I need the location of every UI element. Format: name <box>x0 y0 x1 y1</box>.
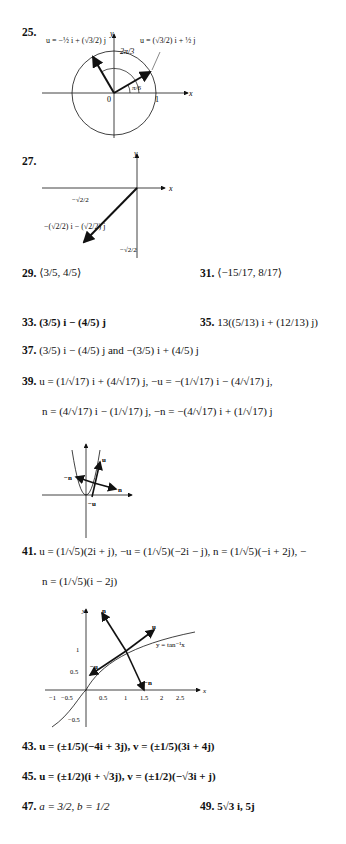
y-tick: −0.5 <box>68 716 80 723</box>
answer-number-31: 31. <box>200 267 214 279</box>
label-n: n <box>102 607 106 615</box>
figure-25-unit-circle: x y 0 1 2π/3 π/6 <box>40 30 200 140</box>
x-tick: −0.5 <box>61 694 73 701</box>
answer-35: 13((5/13) i + (12/13) j) <box>217 316 318 328</box>
figure-41-arctan: x y y = tan⁻¹x u −u n −n −1 −0.5 0.5 1 1… <box>40 605 210 730</box>
answer-number-39: 39. <box>22 375 36 387</box>
y-tick: 1 <box>76 646 79 653</box>
answer-number-49: 49. <box>200 800 214 812</box>
vector-label: −(√2/2) i − (√2/2) j <box>44 222 105 231</box>
figure-27-vector: x y −√2/2 −√2/2 <box>40 150 180 260</box>
angle-label-small: π/6 <box>132 84 141 92</box>
answer-33: (3/5) i − (4/5) j <box>39 316 106 328</box>
x-tick: −1 <box>49 694 56 701</box>
label-neg-u: −u <box>90 663 98 671</box>
answer-number-33: 33. <box>22 316 36 328</box>
label-neg-n: −n <box>64 474 72 482</box>
axis-y-label: y <box>133 150 138 158</box>
answer-29: ⟨3/5, 4/5⟩ <box>39 266 81 279</box>
answer-number-43: 43. <box>22 740 36 752</box>
answer-number-37: 37. <box>22 344 36 356</box>
axis-x-label: x <box>202 687 207 695</box>
answer-31: ⟨−15/17, 8/17⟩ <box>217 266 282 279</box>
curve-label: y = tan⁻¹x <box>156 641 185 649</box>
answer-39-line1: u = (1/√17) i + (4/√17) j, −u = −(1/√17)… <box>39 375 272 387</box>
label-neg-u: −u <box>88 500 96 508</box>
x-tick: 2 <box>160 694 163 701</box>
answer-41-line2: n = (1/√5)(i − 2j) <box>42 575 117 587</box>
axis-y-label: y <box>109 30 114 38</box>
answer-number-29: 29. <box>22 267 36 279</box>
label-u: u <box>152 623 156 631</box>
x-tick: 2.5 <box>176 694 184 701</box>
origin-label: 0 <box>107 95 111 104</box>
figure-39-parabola: u −n n −u <box>40 440 140 540</box>
label-n: n <box>118 486 122 494</box>
answer-number-47: 47. <box>22 800 36 812</box>
answer-number-35: 35. <box>200 316 214 328</box>
x-tick: 1.5 <box>140 694 148 701</box>
answer-39-line2: n = (4/√17) i − (1/√17) j, −n = −(4/√17)… <box>42 405 273 417</box>
answer-41-line1: u = (1/√5)(2i + j), −u = (1/√5)(−2i − j)… <box>39 545 306 557</box>
answer-number-25: 25. <box>22 26 36 38</box>
label-neg-n: −n <box>144 679 152 687</box>
tick-x-label: −√2/2 <box>72 196 89 204</box>
axis-y-label: y <box>81 607 86 615</box>
y-tick: 0.5 <box>70 668 78 675</box>
axis-x-label: x <box>168 184 173 193</box>
answer-47: a = 3/2, b = 1/2 <box>39 800 109 812</box>
vector-label-left: u = −½ i + (√3/2) j <box>46 36 106 45</box>
x-tick: 1 <box>124 694 127 701</box>
angle-label-large: 2π/3 <box>120 47 134 56</box>
vector-label-right: u = (√3/2) i + ½ j <box>140 36 195 45</box>
answer-43: u = (±1/5)(−4i + 3j), v = (±1/5)(3i + 4j… <box>39 740 214 752</box>
tick-label: 1 <box>155 95 159 104</box>
axis-x-label: x <box>188 89 193 98</box>
answer-number-45: 45. <box>22 770 36 782</box>
answer-number-41: 41. <box>22 545 36 557</box>
tick-y-label: −√2/2 <box>120 246 137 254</box>
answer-number-27: 27. <box>22 155 36 167</box>
answer-37: (3/5) i − (4/5) j and −(3/5) i + (4/5) j <box>39 344 199 356</box>
x-tick: 0.5 <box>99 694 107 701</box>
label-u: u <box>102 456 106 464</box>
answer-49: 5√3 i, 5j <box>217 800 255 812</box>
answer-45: u = (±1/2)(i + √3j), v = (±1/2)(−√3i + j… <box>39 770 215 782</box>
